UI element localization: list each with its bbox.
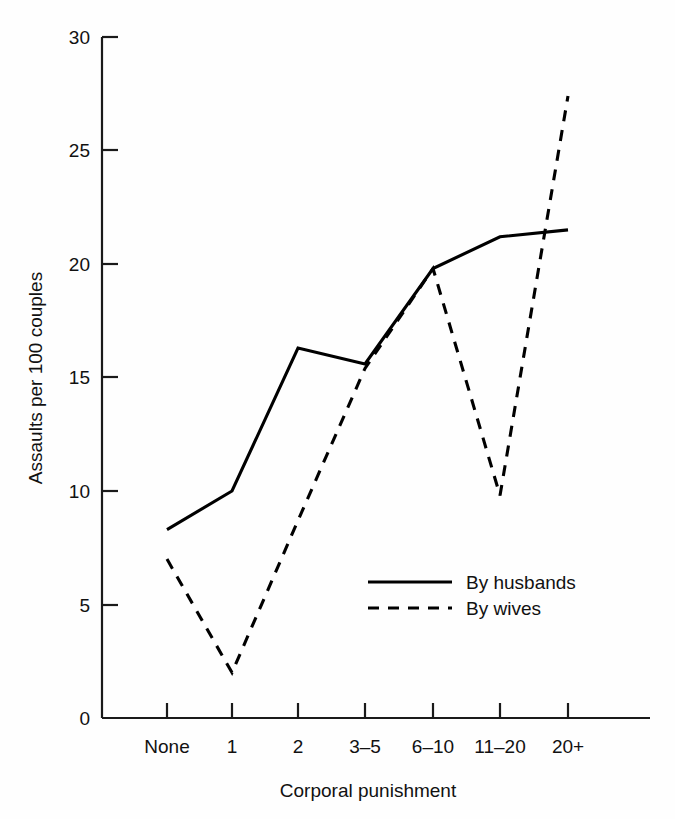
chart-legend: By husbands By wives: [368, 572, 576, 619]
x-tick-label-6-10: 6–10: [412, 736, 454, 757]
y-axis-tick-labels: 30 25 20 15 10 5 0: [69, 27, 90, 729]
y-tick-label-20: 20: [69, 254, 90, 275]
series-line-by-husbands: [167, 230, 568, 530]
x-tick-label-none: None: [144, 736, 189, 757]
y-tick-label-30: 30: [69, 27, 90, 48]
y-axis-title: Assaults per 100 couples: [25, 272, 46, 484]
x-tick-label-3-5: 3–5: [349, 736, 381, 757]
x-axis-tick-labels: None 1 2 3–5 6–10 11–20 20+: [144, 736, 584, 757]
chart-figure: 30 25 20 15 10 5 0 Assaults per 100 coup…: [0, 0, 675, 819]
y-tick-label-0: 0: [79, 708, 90, 729]
line-chart: 30 25 20 15 10 5 0 Assaults per 100 coup…: [0, 0, 675, 819]
y-tick-label-10: 10: [69, 481, 90, 502]
y-tick-label-15: 15: [69, 367, 90, 388]
legend-label-by-husbands: By husbands: [466, 572, 576, 593]
legend-label-by-wives: By wives: [466, 598, 541, 619]
x-tick-label-1: 1: [227, 736, 238, 757]
y-tick-label-5: 5: [79, 595, 90, 616]
x-tick-label-2: 2: [293, 736, 304, 757]
x-axis-title: Corporal punishment: [280, 780, 457, 801]
y-axis-ticks: [102, 37, 118, 605]
y-tick-label-25: 25: [69, 140, 90, 161]
x-tick-label-20plus: 20+: [552, 736, 584, 757]
x-tick-label-11-20: 11–20: [474, 736, 525, 757]
x-axis-ticks: [167, 703, 568, 718]
